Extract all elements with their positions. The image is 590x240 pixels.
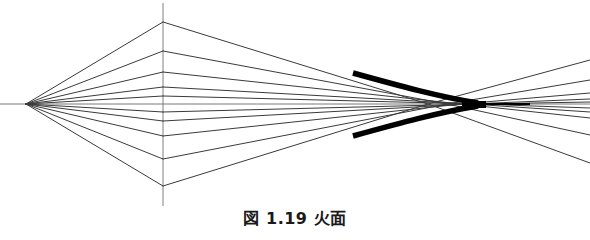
refracted-ray-upper-1 [163, 22, 590, 163]
refracted-ray-upper-2 [163, 51, 590, 135]
incident-ray-lower-5 [26, 104, 163, 112]
caustic-diagram [0, 0, 590, 240]
incident-ray-upper-1 [26, 22, 163, 104]
incident-ray-upper-5 [26, 96, 163, 104]
caustic-cusp-tip [462, 101, 486, 108]
caustic-figure: 図 1.19 火面 [0, 0, 590, 240]
incident-ray-upper-2 [26, 51, 163, 104]
figure-caption: 図 1.19 火面 [0, 205, 590, 229]
incident-ray-upper-3 [26, 72, 163, 104]
incident-ray-upper-4 [26, 87, 163, 104]
incident-ray-lower-1 [26, 104, 163, 186]
